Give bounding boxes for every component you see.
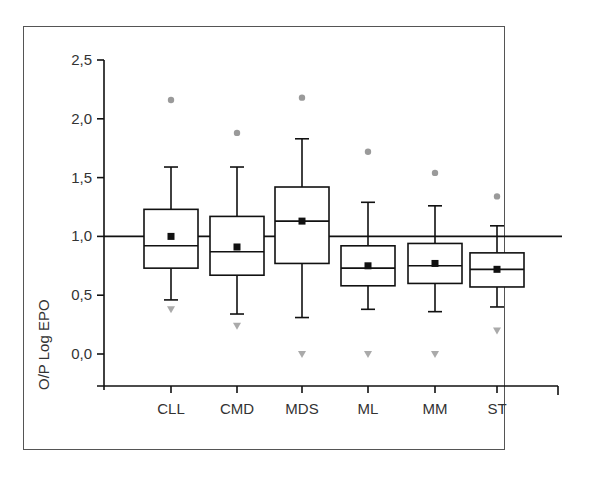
y-axis-label: O/P Log EPO	[35, 299, 52, 390]
box-cll	[144, 97, 198, 314]
box-ml	[341, 149, 395, 358]
min-outlier-marker	[364, 351, 372, 358]
max-outlier-marker	[432, 170, 438, 176]
mean-marker	[168, 233, 175, 240]
y-tick-label: 0,0	[71, 345, 92, 362]
box-mm	[408, 170, 462, 358]
y-tick-label: 2,5	[71, 51, 92, 68]
min-outlier-marker	[167, 306, 175, 313]
box-cmd	[210, 130, 264, 330]
box-st	[470, 193, 524, 334]
max-outlier-marker	[168, 97, 174, 103]
min-outlier-marker	[233, 323, 241, 330]
x-category-label: CLL	[157, 400, 185, 417]
max-outlier-marker	[234, 130, 240, 136]
y-tick-label: 1,0	[71, 227, 92, 244]
x-axis: CLLCMDMDSMLMMST	[97, 386, 558, 417]
boxes	[144, 94, 524, 358]
max-outlier-marker	[494, 193, 500, 199]
box-plot-chart: 0,00,51,01,52,02,5 CLLCMDMDSMLMMST O/P L…	[0, 0, 594, 483]
mean-marker	[494, 266, 501, 273]
y-axis: 0,00,51,01,52,02,5	[71, 51, 104, 390]
min-outlier-marker	[431, 351, 439, 358]
x-category-label: ML	[358, 400, 379, 417]
mean-marker	[432, 260, 439, 267]
x-category-label: ST	[487, 400, 506, 417]
mean-marker	[299, 218, 306, 225]
min-outlier-marker	[298, 351, 306, 358]
y-tick-label: 0,5	[71, 286, 92, 303]
x-category-label: MDS	[285, 400, 318, 417]
x-category-label: MM	[423, 400, 448, 417]
max-outlier-marker	[365, 149, 371, 155]
x-category-label: CMD	[220, 400, 254, 417]
y-tick-label: 2,0	[71, 110, 92, 127]
min-outlier-marker	[493, 327, 501, 334]
mean-marker	[365, 262, 372, 269]
y-tick-label: 1,5	[71, 169, 92, 186]
max-outlier-marker	[299, 94, 305, 100]
box-mds	[275, 94, 329, 358]
mean-marker	[234, 243, 241, 250]
